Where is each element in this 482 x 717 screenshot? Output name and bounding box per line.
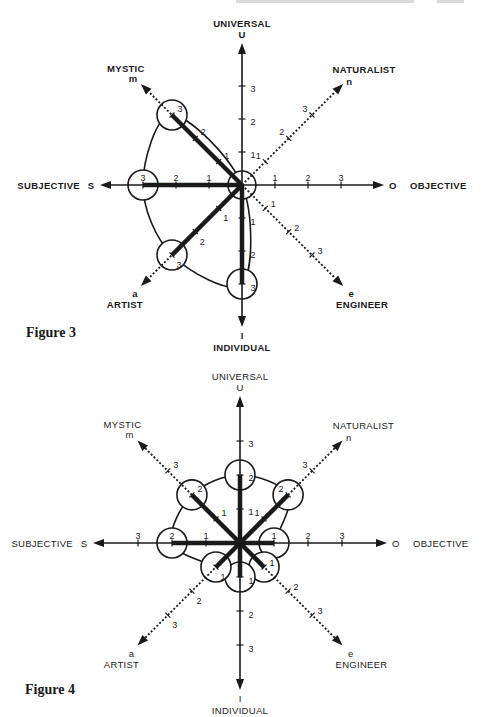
tick-label: 1	[250, 217, 255, 227]
axis-label-objective: OBJECTIVE	[410, 180, 467, 191]
axis-letter-e: e	[348, 648, 353, 659]
tick-label: 2	[279, 484, 284, 494]
axis-label-individual: INDIVIDUAL	[213, 342, 270, 353]
tick-label: 1	[272, 173, 277, 183]
tick-label: 1	[220, 572, 225, 582]
tick-label: 3	[317, 246, 322, 256]
axis-letter-u: U	[239, 29, 246, 40]
axis-letter-o: O	[389, 180, 396, 191]
axis-label-mystic: MYSTIC	[107, 63, 145, 74]
tick-label: 2	[173, 173, 178, 183]
axis-label-subjective: SUBJECTIVE	[11, 538, 73, 549]
tick-label: 3	[248, 439, 253, 449]
arrowhead-icon	[238, 43, 246, 54]
axis-letter-i: I	[239, 693, 242, 704]
axis-label-universal: UNIVERSAL	[212, 371, 269, 382]
tick-label: 1	[256, 151, 261, 161]
tick-label: 3	[140, 173, 145, 183]
axis-letter-m: m	[129, 73, 137, 84]
tick-label: 2	[201, 127, 206, 137]
tick-label: 1	[271, 199, 276, 209]
axis-label-naturalist: NATURALIST	[333, 64, 396, 75]
axis-letter-e: e	[348, 288, 353, 299]
tick-label: 1	[206, 173, 211, 183]
tick-label: 1	[224, 151, 229, 161]
arrowhead-icon	[236, 679, 244, 690]
tick-label: 1	[270, 558, 275, 568]
tick-label: 2	[294, 223, 299, 233]
axis-label-subjective: SUBJECTIVE	[17, 180, 80, 191]
tick-label: 3	[250, 84, 255, 94]
axis-letter-s: S	[81, 538, 87, 549]
axis-label-artist: ARTIST	[107, 299, 143, 310]
tick-label: 1	[250, 150, 255, 160]
tick-label: 1	[271, 531, 276, 541]
figure-3-diagram: 123UUNIVERSAL123nNATURALIST123OOBJECTIVE…	[17, 18, 466, 353]
tick-label: 1	[248, 576, 253, 586]
tick-label: 2	[197, 484, 202, 494]
tick-label: 3	[250, 283, 255, 293]
axis-label-individual: INDIVIDUAL	[212, 705, 268, 716]
tick-label: 2	[200, 237, 205, 247]
arrowhead-icon	[376, 539, 387, 547]
tick-label: 2	[279, 127, 284, 137]
tick-label: 3	[339, 531, 344, 541]
axis-letter-s: S	[88, 180, 94, 191]
profile-markers	[128, 100, 257, 299]
axis-letter-n: n	[346, 432, 351, 443]
arrowhead-icon	[93, 539, 104, 547]
tick-label: 3	[172, 620, 177, 630]
axis-label-universal: UNIVERSAL	[213, 18, 271, 29]
tick-label: 3	[135, 531, 140, 541]
tick-label: 3	[318, 606, 323, 616]
tick-label: 2	[248, 473, 253, 483]
figure-4-caption: Figure 4	[25, 682, 75, 698]
axis-label-artist: ARTIST	[104, 659, 139, 670]
axis-letter-a: a	[132, 288, 138, 299]
figure-4-diagram: 123UUNIVERSAL123nNATURALIST123OOBJECTIVE…	[11, 371, 468, 716]
tick-label: 3	[248, 644, 253, 654]
axis-letter-m: m	[126, 429, 134, 440]
tick-label: 3	[177, 104, 182, 114]
arrowhead-icon	[333, 276, 344, 287]
tick-label: 2	[169, 531, 174, 541]
tick-label: 2	[305, 173, 310, 183]
profile-spoke-artist	[172, 185, 242, 255]
figure-3-caption: Figure 3	[26, 325, 76, 341]
axis-letter-u: U	[237, 382, 244, 393]
tick-label: 2	[305, 531, 310, 541]
axis-label-objective: OBJECTIVE	[413, 538, 469, 549]
arrowhead-icon	[236, 396, 244, 407]
tick-label: 1	[203, 531, 208, 541]
axis-label-mystic: MYSTIC	[104, 419, 142, 430]
tick-label: 1	[255, 508, 260, 518]
tick-label: 3	[302, 104, 307, 114]
tick-label: 3	[176, 260, 181, 270]
arrowhead-icon	[373, 181, 384, 189]
tick-label: 1	[221, 508, 226, 518]
tick-label: 2	[250, 250, 255, 260]
tick-mark	[263, 159, 268, 164]
tick-label: 2	[250, 117, 255, 127]
tick-label: 2	[196, 596, 201, 606]
tick-label: 1	[223, 213, 228, 223]
axis-letter-o: O	[392, 538, 399, 549]
tick-mark	[263, 206, 268, 211]
axis-label-engineer: ENGINEER	[336, 299, 388, 310]
axis-letter-n: n	[346, 76, 352, 87]
arrowhead-icon	[100, 181, 111, 189]
tick-label: 3	[303, 460, 308, 470]
tick-label: 2	[294, 582, 299, 592]
arrowhead-icon	[238, 316, 246, 327]
tick-label: 1	[248, 507, 253, 517]
tick-label: 3	[338, 173, 343, 183]
tick-label: 3	[173, 460, 178, 470]
axis-label-naturalist: NATURALIST	[333, 420, 394, 431]
diagram-canvas: 123UUNIVERSAL123nNATURALIST123OOBJECTIVE…	[0, 0, 482, 717]
axis-letter-a: a	[129, 648, 135, 659]
axis-label-engineer: ENGINEER	[336, 659, 388, 670]
book-page: 123UUNIVERSAL123nNATURALIST123OOBJECTIVE…	[0, 0, 482, 717]
tick-label: 2	[248, 610, 253, 620]
axis-letter-i: I	[241, 330, 244, 341]
